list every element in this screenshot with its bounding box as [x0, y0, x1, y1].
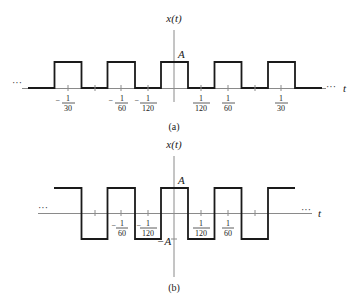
y-axis-label-b: x(t) [165, 138, 182, 151]
tick-label-1-60: 1 60 [222, 94, 235, 113]
svg-text:60: 60 [224, 229, 232, 238]
svg-text:1: 1 [226, 94, 230, 103]
svg-text:120: 120 [142, 229, 154, 238]
x-axis-label-b: t [318, 207, 322, 219]
figure-b: x(t) A −A t ··· ··· − 1 60 − 1 120 [38, 138, 322, 294]
square-wave-a [28, 62, 322, 88]
tick-label-b-neg-1-60: − 1 60 [111, 219, 128, 238]
svg-text:120: 120 [142, 104, 154, 113]
amplitude-label-b: A [177, 174, 185, 186]
svg-text:−: − [55, 96, 60, 105]
svg-text:1: 1 [199, 94, 203, 103]
svg-text:1: 1 [66, 94, 70, 103]
svg-text:60: 60 [118, 104, 126, 113]
svg-text:1: 1 [199, 219, 203, 228]
svg-text:120: 120 [195, 229, 207, 238]
caption-b: (b) [168, 282, 180, 294]
continuation-left-a: ··· [12, 77, 22, 88]
svg-text:60: 60 [224, 104, 232, 113]
tick-label-b-neg-1-120: − 1 120 [136, 219, 157, 238]
amplitude-label-a: A [177, 48, 185, 60]
svg-text:−: − [111, 221, 116, 230]
continuation-right-a: ··· [326, 81, 336, 92]
svg-text:1: 1 [146, 94, 150, 103]
svg-text:1: 1 [279, 94, 283, 103]
svg-text:−: − [136, 221, 141, 230]
tick-label-1-120: 1 120 [193, 94, 210, 113]
x-axis-label-a: t [343, 82, 347, 94]
svg-text:1: 1 [120, 94, 124, 103]
svg-text:1: 1 [120, 219, 124, 228]
svg-text:1: 1 [146, 219, 150, 228]
figure-a: x(t) A t ··· ··· − 1 30 − 1 6 [12, 12, 347, 133]
svg-text:30: 30 [64, 104, 72, 113]
svg-text:1: 1 [226, 219, 230, 228]
figure-canvas: x(t) A t ··· ··· − 1 30 − 1 6 [0, 0, 355, 300]
svg-text:−: − [134, 96, 139, 105]
neg-amplitude-label-b: −A [157, 235, 171, 247]
svg-text:−: − [108, 96, 113, 105]
tick-label-1-30: 1 30 [275, 94, 288, 113]
continuation-right-b: ··· [301, 204, 311, 215]
y-axis-label-a: x(t) [165, 12, 182, 25]
tick-label-neg-1-60: − 1 60 [108, 94, 128, 113]
svg-text:30: 30 [277, 104, 285, 113]
caption-a: (a) [168, 121, 179, 133]
svg-text:120: 120 [195, 104, 207, 113]
svg-text:60: 60 [118, 229, 126, 238]
continuation-left-b: ··· [38, 202, 48, 213]
tick-label-b-1-120: 1 120 [193, 219, 210, 238]
tick-label-neg-1-30: − 1 30 [55, 94, 75, 113]
tick-label-b-1-60: 1 60 [222, 219, 234, 238]
tick-label-neg-1-120: − 1 120 [134, 94, 157, 113]
